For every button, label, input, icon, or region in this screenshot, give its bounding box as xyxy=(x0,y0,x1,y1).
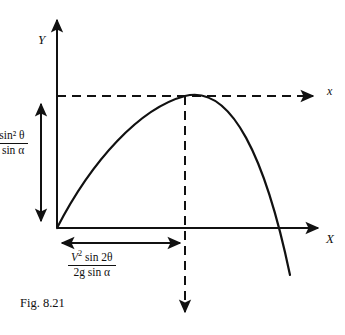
max-height-fraction: ² sin² θ g sin α xyxy=(0,130,28,156)
max-height-formula: ² sin² θ g sin α xyxy=(0,130,28,157)
figure-canvas xyxy=(0,0,345,335)
range-formula: V2 sin 2θ 2g sin α xyxy=(68,252,116,279)
figure-caption: Fig. 8.21 xyxy=(20,297,65,310)
max-height-numerator: ² sin² θ xyxy=(0,130,28,144)
trajectory-curve xyxy=(57,95,290,275)
range-fraction: V2 sin 2θ 2g sin α xyxy=(68,252,116,278)
max-height-denominator: g sin α xyxy=(0,144,28,157)
y-axis-label: Y xyxy=(38,33,45,46)
range-denominator: 2g sin α xyxy=(68,266,116,279)
dashed-axis-label-x: x xyxy=(327,85,332,97)
range-numerator: V2 sin 2θ xyxy=(68,252,116,266)
range-numerator-rest: sin 2θ xyxy=(82,251,112,263)
x-axis-label: X xyxy=(326,232,334,245)
range-numerator-variable: V xyxy=(71,251,78,263)
figure-projectile-parabola: Y x X ² sin² θ g sin α V2 sin 2θ 2g sin … xyxy=(0,0,345,335)
